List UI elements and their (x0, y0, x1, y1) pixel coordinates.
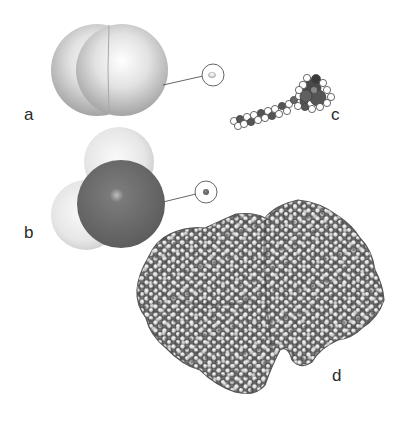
panel-label-c: c (331, 106, 340, 123)
callout-line-a (163, 76, 203, 85)
panel-label-d: d (332, 367, 341, 384)
panel-label-a: a (24, 106, 33, 123)
scale-inset-a (202, 64, 224, 86)
lipid-molecule-model (230, 74, 334, 129)
callout-line-b (163, 194, 196, 202)
panel-label-b: b (24, 224, 33, 241)
hydrogen-molecule-model (51, 24, 168, 116)
protein-model (137, 200, 384, 393)
molecule-scale-figure: a b c d (0, 0, 406, 427)
water-molecule-model (51, 127, 165, 250)
scale-inset-b (195, 181, 217, 203)
